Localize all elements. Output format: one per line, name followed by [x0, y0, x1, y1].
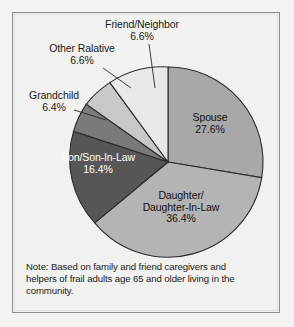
pie-label-grandchild-value: 6.4%	[14, 102, 94, 114]
pie-label-other-relative-name: Other Ralative	[49, 42, 115, 54]
pie-label-other-relative: Other Ralative 6.6%	[36, 43, 128, 66]
pie-chart-figure: Friend/Neighbor 6.6% Other Ralative 6.6%…	[0, 0, 294, 327]
pie-label-son-value: 16.4%	[46, 164, 150, 176]
pie-label-friend-neighbor-value: 6.6%	[96, 31, 188, 43]
pie-label-son: Son/Son-In-Law 16.4%	[46, 152, 150, 175]
pie-label-spouse-name: Spouse	[192, 111, 227, 123]
pie-label-grandchild-name: Grandchild	[29, 89, 79, 101]
pie-label-grandchild: Grandchild 6.4%	[14, 90, 94, 113]
pie-label-daughter-name-line1: Daughter/	[158, 189, 203, 201]
pie-label-daughter: Daughter/ Daughter-In-Law 36.4%	[132, 190, 230, 225]
chart-footnote: Note: Based on family and friend caregiv…	[26, 261, 258, 298]
pie-label-spouse-value: 27.6%	[178, 124, 242, 136]
pie-label-daughter-value: 36.4%	[132, 213, 230, 225]
pie-label-friend-neighbor-name: Friend/Neighbor	[105, 18, 179, 30]
pie-label-son-name: Son/Son-In-Law	[61, 151, 135, 163]
pie-label-friend-neighbor: Friend/Neighbor 6.6%	[96, 19, 188, 42]
pie-label-spouse: Spouse 27.6%	[178, 112, 242, 135]
pie-label-other-relative-value: 6.6%	[36, 55, 128, 67]
